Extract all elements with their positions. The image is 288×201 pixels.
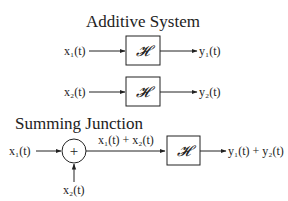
summing-title: Summing Junction bbox=[15, 114, 143, 133]
sum-input1-label: x₁(t) bbox=[9, 144, 31, 158]
row1-input-label: x₁(t) bbox=[64, 44, 86, 58]
row1-output-label: y₁(t) bbox=[199, 44, 221, 58]
summing-plus-icon: + bbox=[70, 143, 78, 159]
sum-output-label: y₁(t) + y₂(t) bbox=[228, 144, 284, 158]
additive-title: Additive System bbox=[86, 12, 200, 31]
sum-label: x₁(t) + x₂(t) bbox=[98, 133, 154, 147]
row2-input-label: x₂(t) bbox=[64, 85, 86, 99]
row2-output-label: y₂(t) bbox=[199, 85, 221, 99]
sum-input2-label: x₂(t) bbox=[63, 183, 85, 197]
additive-system-diagram: Additive System x₁(t) 𝓗 y₁(t) x₂(t) 𝓗 y₂… bbox=[0, 0, 288, 201]
